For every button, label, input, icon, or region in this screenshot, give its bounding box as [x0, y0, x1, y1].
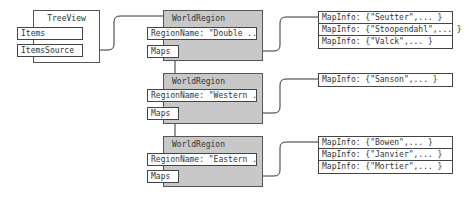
- map-info-item: MapInfo: {"Stoopendahl",... }: [319, 24, 452, 36]
- map-info-item: MapInfo: {"Seutter",... }: [319, 12, 452, 24]
- map-info-list: MapInfo: {"Sanson",... }: [318, 73, 453, 87]
- map-info-list: MapInfo: {"Bowen",... } MapInfo: {"Janvi…: [318, 136, 453, 174]
- region-name-property: RegionName: "Western ...": [147, 89, 257, 102]
- region-name-property: RegionName: "Double ...": [147, 27, 257, 40]
- region-name-property: RegionName: "Eastern ...": [147, 153, 257, 166]
- map-info-item: MapInfo: {"Mortier",... }: [319, 161, 452, 173]
- maps-property: Maps: [147, 107, 179, 120]
- world-region-title: WorldRegion: [172, 14, 262, 23]
- map-info-item: MapInfo: {"Janvier",... }: [319, 149, 452, 161]
- world-region-title: WorldRegion: [172, 140, 262, 149]
- map-info-item: MapInfo: {"Bowen",... }: [319, 137, 452, 149]
- map-info-item: MapInfo: {"Sanson",... }: [319, 74, 452, 86]
- world-region-title: WorldRegion: [172, 77, 262, 86]
- items-source-property: ItemsSource: [17, 44, 83, 57]
- maps-property: Maps: [147, 45, 179, 58]
- map-info-list: MapInfo: {"Seutter",... } MapInfo: {"Sto…: [318, 11, 453, 49]
- maps-property: Maps: [147, 170, 179, 183]
- treeview-title: TreeView: [34, 14, 99, 23]
- map-info-item: MapInfo: {"Valck",... }: [319, 36, 452, 48]
- items-property: Items: [17, 27, 83, 40]
